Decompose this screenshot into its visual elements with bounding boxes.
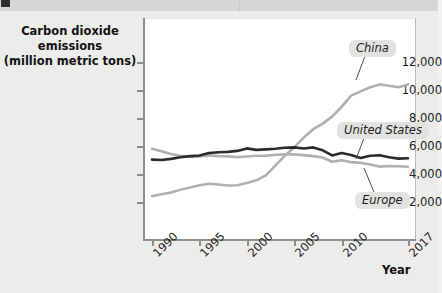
y-tick-label-4000: 4,000 (324, 167, 442, 181)
y-tick-12000 (137, 62, 145, 64)
y-tick-8000 (137, 118, 145, 120)
page-scan-top-band (0, 0, 442, 11)
y-tick-label-12000: 12,000 (324, 55, 442, 69)
y-tick-10000 (137, 90, 145, 92)
series-callout-china: China (349, 40, 396, 57)
y-axis-line (143, 18, 145, 240)
y-axis-title-line-2: (million metric tons) (2, 54, 138, 69)
y-tick-label-10000: 10,000 (324, 83, 442, 97)
y-tick-4000 (137, 174, 145, 176)
y-tick-label-6000: 6,000 (324, 139, 442, 153)
x-axis-title: Year (382, 263, 411, 277)
x-axis-line (143, 239, 416, 241)
page-scan-seam (239, 0, 240, 11)
y-axis-title-line-1: Carbon dioxide emissions (2, 24, 138, 54)
y-tick-6000 (137, 146, 145, 148)
series-callout-europe: Europe (355, 192, 410, 209)
page-scan-artifact (1, 0, 10, 7)
y-axis-title: Carbon dioxide emissions (million metric… (2, 24, 138, 70)
series-callout-united-states: United States (337, 122, 429, 139)
figure-root: Carbon dioxide emissions (million metric… (0, 0, 442, 293)
y-tick-2000 (137, 202, 145, 204)
